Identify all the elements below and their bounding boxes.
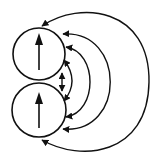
up-arrow-icon [35, 92, 43, 128]
diagram-canvas [0, 0, 159, 159]
field-line-arc-2 [66, 47, 90, 117]
field-line-arc-1 [64, 60, 72, 101]
field-line-arc-4 [42, 13, 149, 152]
dipole-field-diagram: Two aligned dipoles with field lines [0, 0, 159, 159]
dipole-top [13, 28, 65, 80]
up-arrow-icon [35, 33, 43, 70]
field-lines [42, 13, 149, 152]
dipole-bottom [12, 83, 66, 137]
